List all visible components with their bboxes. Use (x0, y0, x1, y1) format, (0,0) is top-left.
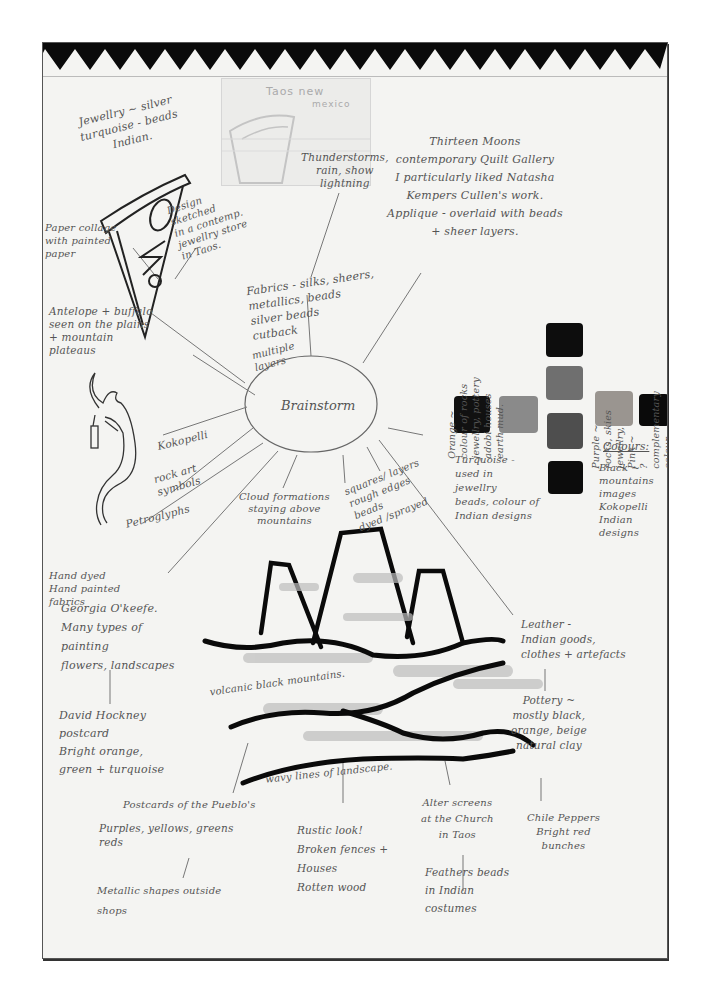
brainstorm-label: Brainstorm (281, 398, 355, 413)
note-purple: Purple ~ rocks, skies jewellry, Pink ~ ?… (590, 391, 668, 469)
note-cloud: Cloud formations staying above mountains (239, 491, 330, 527)
note-alter: Alter screens at the Church in Taos (421, 795, 494, 843)
swatch-mid-grey (546, 366, 583, 400)
note-metallic: Metallic shapes outside shops (97, 881, 221, 921)
note-purples-yellows: Purples, yellows, greens reds (99, 821, 234, 849)
note-paper-collage: Paper collage with painted paper (45, 221, 116, 260)
note-pueblos: Postcards of the Pueblo's (123, 797, 256, 812)
swatch-dark-grey (547, 413, 583, 449)
note-rustic: Rustic look! Broken fences + Houses Rott… (297, 821, 388, 897)
note-thirteen-moons: Thirteen Moons contemporary Quilt Galler… (387, 133, 563, 241)
note-turquoise: Turquoise - used in jewellry beads, colo… (455, 453, 539, 523)
note-chile: Chile Peppers Bright red bunches (527, 811, 600, 853)
note-feathers: Feathers beads in Indian costumes (425, 863, 509, 917)
note-georgia: Georgia O'keefe. Many types of painting … (61, 599, 175, 675)
note-orange: Orange ~ colour of rocks jewellry, potte… (446, 377, 506, 458)
note-black: Black ~ mountains images Kokopelli India… (599, 461, 654, 539)
note-thunderstorms: Thunderstorms, rain, show lightning (301, 151, 389, 190)
note-hockney: David Hockney postcard Bright orange, gr… (59, 707, 164, 779)
note-antelope: Antelope + buffalo seen on the plains + … (49, 305, 153, 357)
note-leather: Leather - Indian goods, clothes + artefa… (521, 617, 626, 662)
colours-heading: Colours: (603, 439, 649, 454)
kokopelli-drawing (90, 373, 136, 525)
note-pottery: Pottery ~ mostly black, orange, beige na… (511, 693, 587, 753)
sketchbook-page: Taos new mexico (42, 42, 668, 959)
swatch-black-bottom (548, 461, 583, 494)
swatch-black-top (546, 323, 583, 357)
